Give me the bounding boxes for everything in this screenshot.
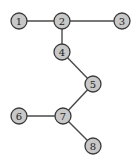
edges-layer: [19, 21, 122, 146]
node-label: 6: [16, 111, 22, 122]
node-2: 2: [54, 13, 70, 29]
node-5: 5: [85, 76, 101, 92]
node-4: 4: [54, 44, 70, 60]
node-6: 6: [11, 108, 27, 124]
node-8: 8: [85, 138, 101, 154]
node-3: 3: [114, 13, 130, 29]
graph-canvas: 12345678: [0, 0, 140, 168]
node-label: 8: [90, 141, 96, 152]
node-7: 7: [55, 108, 71, 124]
node-label: 4: [59, 47, 65, 58]
nodes-layer: 12345678: [11, 13, 130, 154]
node-label: 3: [119, 16, 125, 27]
node-1: 1: [11, 13, 27, 29]
node-label: 1: [16, 16, 22, 27]
node-label: 7: [60, 111, 66, 122]
node-label: 5: [90, 79, 96, 90]
node-label: 2: [59, 16, 65, 27]
